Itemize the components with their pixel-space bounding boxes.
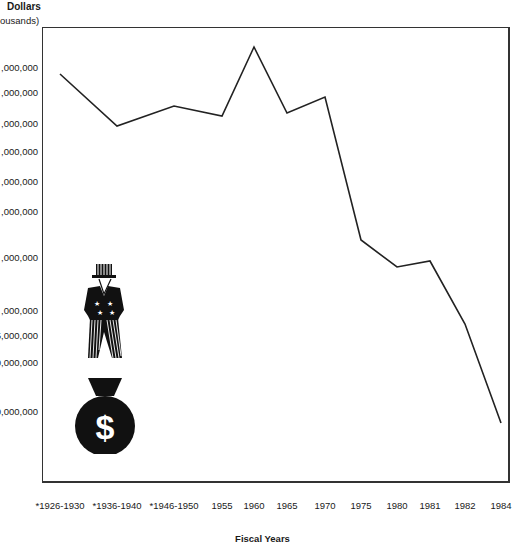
top-hat-icon: [92, 264, 116, 278]
money-bag-icon: $: [75, 378, 135, 454]
svg-text:★: ★: [109, 309, 115, 316]
svg-text:$: $: [96, 408, 115, 446]
x-axis-title: Fiscal Years: [0, 533, 517, 544]
uncle-sam-money-bag-icon: ★ ★ ★ ★ $: [66, 258, 148, 454]
svg-text:★: ★: [97, 309, 103, 316]
svg-text:★: ★: [107, 300, 113, 307]
svg-text:★: ★: [94, 300, 100, 307]
striped-trousers: [88, 318, 122, 358]
